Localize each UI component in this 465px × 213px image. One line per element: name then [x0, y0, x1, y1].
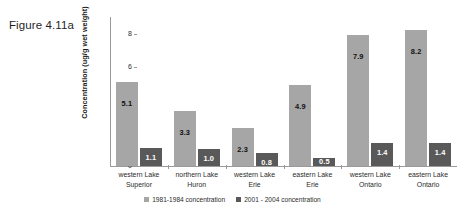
bar[interactable]: 4.9 [289, 85, 311, 166]
bar-value-label: 7.9 [347, 52, 369, 61]
x-axis-label-line: Erie [226, 180, 284, 190]
x-axis-label-line: Erie [284, 180, 342, 190]
x-axis-label: northern LakeHuron [168, 170, 226, 189]
legend-swatch-icon [236, 197, 241, 202]
x-axis-label-line: Huron [168, 180, 226, 190]
chart-legend: 1981-1984 concentration2001 - 2004 conce… [0, 196, 465, 203]
bar[interactable]: 1.4 [371, 143, 393, 166]
bar[interactable]: 1.0 [198, 149, 220, 166]
x-axis-labels: western LakeSuperiornorthern LakeHuronwe… [110, 170, 457, 198]
x-axis-label-line: western Lake [226, 170, 284, 180]
bar[interactable]: 1.4 [429, 143, 451, 166]
x-axis-label-line: eastern Lake [284, 170, 342, 180]
bar-chart: Concentration (ug/g wet weight) 02468 5.… [83, 14, 457, 169]
bar[interactable]: 3.3 [174, 111, 196, 166]
bar-value-label: 0.5 [313, 157, 335, 166]
x-axis-label-line: western Lake [110, 170, 168, 180]
bar[interactable]: 7.9 [347, 35, 369, 166]
x-axis-group-separator [341, 165, 342, 169]
x-axis-label: western LakeSuperior [110, 170, 168, 189]
bar-value-label: 2.3 [232, 145, 254, 154]
bar-value-label: 4.9 [289, 102, 311, 111]
bar-value-label: 1.4 [429, 148, 451, 157]
x-axis-label: eastern LakeErie [284, 170, 342, 189]
bar-value-label: 3.3 [174, 128, 196, 137]
x-axis-label: western LakeErie [226, 170, 284, 189]
bar-value-label: 1.0 [198, 154, 220, 163]
x-axis-label: western LakeOntario [341, 170, 399, 189]
bar-group: 2.30.8 [232, 17, 278, 166]
x-axis-group-separator [168, 165, 169, 169]
bar[interactable]: 0.5 [313, 158, 335, 166]
bar[interactable]: 8.2 [405, 30, 427, 166]
x-axis-label-line: Ontario [399, 180, 457, 190]
y-tick-mark [134, 166, 137, 167]
x-axis-label: eastern LakeOntario [399, 170, 457, 189]
bar-group: 7.91.4 [347, 17, 393, 166]
bar-group: 5.11.1 [116, 17, 162, 166]
x-axis-label-line: western Lake [341, 170, 399, 180]
bar[interactable]: 2.3 [232, 128, 254, 166]
x-axis-group-separator [399, 165, 400, 169]
x-axis-label-line: Ontario [341, 180, 399, 190]
x-axis-label-line: northern Lake [168, 170, 226, 180]
bar[interactable]: 5.1 [116, 82, 138, 166]
legend-swatch-icon [144, 197, 149, 202]
y-axis-title: Concentration (ug/g wet weight) [80, 0, 89, 138]
bar-group: 8.21.4 [405, 17, 451, 166]
bar-value-label: 5.1 [116, 99, 138, 108]
bar-value-label: 0.8 [256, 158, 278, 167]
legend-label: 2001 - 2004 concentration [244, 196, 321, 203]
bar-group: 4.90.5 [289, 17, 335, 166]
figure-container: Figure 4.11a Concentration (ug/g wet wei… [0, 0, 465, 213]
bar-value-label: 8.2 [405, 47, 427, 56]
figure-caption: Figure 4.11a [9, 19, 74, 31]
bar-groups: 5.11.13.31.02.30.84.90.57.91.48.21.4 [110, 17, 457, 166]
bar-value-label: 1.4 [371, 148, 393, 157]
x-axis-group-separator [226, 165, 227, 169]
legend-label: 1981-1984 concentration [152, 196, 225, 203]
legend-item[interactable]: 2001 - 2004 concentration [236, 196, 321, 203]
bar-group: 3.31.0 [174, 17, 220, 166]
legend-item[interactable]: 1981-1984 concentration [144, 196, 225, 203]
x-axis-label-line: Superior [110, 180, 168, 190]
bar[interactable]: 0.8 [256, 153, 278, 166]
bar[interactable]: 1.1 [140, 148, 162, 166]
x-axis-group-separator [284, 165, 285, 169]
x-axis-label-line: eastern Lake [399, 170, 457, 180]
bar-value-label: 1.1 [140, 153, 162, 162]
y-axis-tick: 0 [110, 166, 137, 167]
